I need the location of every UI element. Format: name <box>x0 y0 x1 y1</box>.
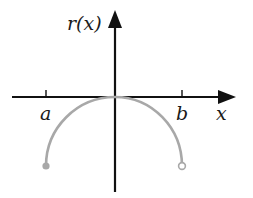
x-axis-label: x <box>216 102 227 124</box>
tick-label-a: a <box>40 102 51 124</box>
tick-label-b: b <box>176 102 188 124</box>
y-axis-arrow-icon <box>108 10 122 28</box>
y-axis-label: r(x) <box>67 12 102 34</box>
function-graph: r(x) x a b <box>0 0 253 198</box>
open-endpoint-b <box>179 163 186 170</box>
closed-endpoint-a <box>42 162 49 169</box>
